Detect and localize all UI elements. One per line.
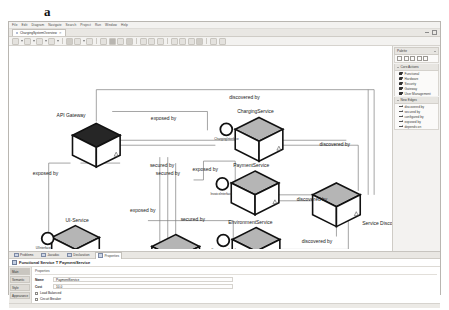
properties-header-title: Functional Service T PaymentService (19, 260, 90, 265)
align-left-button[interactable] (140, 38, 147, 45)
chevron-down-icon[interactable] (45, 40, 47, 42)
properties-section-appearance[interactable]: Appearance (10, 292, 30, 299)
palette-section-new-edges[interactable]: New Edges (394, 97, 439, 104)
checkbox-icon[interactable] (35, 292, 38, 295)
bold-button[interactable] (86, 38, 93, 45)
connection-icon[interactable] (423, 56, 428, 61)
chevron-down-icon[interactable] (434, 51, 436, 52)
palette-panel: Palette Core Actions Functional Hardwa (393, 46, 440, 251)
layout-tool-button[interactable] (48, 38, 55, 45)
name-field[interactable]: PaymentService (53, 277, 233, 282)
cube-light-icon (399, 77, 403, 81)
properties-section-main[interactable]: Main (10, 268, 30, 275)
note-icon[interactable] (410, 56, 415, 61)
close-icon[interactable]: ✕ (59, 31, 62, 35)
node-label: ChargingService (237, 109, 274, 114)
select-arrow-icon[interactable] (397, 56, 402, 61)
javadoc-icon (41, 253, 46, 258)
field-row-cost: Cost 10.0 (35, 284, 233, 289)
tab-problems[interactable]: Problems (12, 252, 35, 258)
properties-section-list: Main Semantic Style Appearance (9, 267, 32, 303)
menu-item-file[interactable]: File (12, 23, 18, 28)
edge-label: exposed by (33, 171, 59, 176)
palette-item-label: Security (405, 82, 417, 86)
chevron-down-icon[interactable] (83, 40, 85, 42)
chevron-down-icon[interactable] (57, 40, 59, 42)
tab-javadoc[interactable]: Javadoc (39, 252, 61, 258)
font-name-button[interactable] (66, 38, 73, 45)
node-label: UI-Service (66, 218, 89, 223)
cube-top-face (152, 235, 200, 250)
diagram-node-charging-service[interactable]: ChargingService (235, 109, 283, 161)
diagram-node-payment-service[interactable]: PaymentService (231, 163, 279, 215)
diagram-node-api-gateway[interactable]: API Gateway (57, 113, 120, 167)
menu-item-diagram[interactable]: Diagram (31, 23, 44, 28)
edge-label: exposed by (151, 116, 177, 121)
properties-section-style[interactable]: Style (10, 284, 30, 291)
diagram-node-ui-service[interactable]: UI-Service (52, 218, 100, 250)
interface-invoice-interface[interactable]: InvoiceInterface (210, 178, 232, 196)
palette-item-label: discovered by (405, 105, 425, 109)
menu-item-project[interactable]: Project (80, 23, 91, 28)
export-image-button[interactable] (210, 38, 217, 45)
edge-label: exposed by (130, 208, 156, 213)
marquee-tool-button[interactable] (24, 38, 31, 45)
italic-button[interactable] (100, 38, 107, 45)
bring-to-front-button[interactable] (179, 38, 186, 45)
menu-item-window[interactable]: Window (105, 23, 117, 28)
properties-icon (98, 253, 103, 258)
cube-dark-icon (399, 87, 403, 91)
fill-color-button[interactable] (109, 38, 116, 45)
diagram-node-service-discovery[interactable]: Service Discovery (313, 183, 392, 227)
palette-item-depends-on[interactable]: depends on (394, 124, 439, 130)
edge-label: secured by (150, 163, 175, 168)
minimize-icon[interactable] (425, 32, 429, 33)
checkbox-row-circuit-breaker[interactable]: Circuit Breaker (35, 297, 233, 301)
select-tool-button[interactable] (12, 38, 19, 45)
cube-light-icon (399, 72, 403, 76)
maximize-icon[interactable] (432, 30, 437, 35)
zoom-tool-button[interactable] (36, 38, 43, 45)
send-to-back-button[interactable] (171, 38, 178, 45)
diagram-canvas[interactable]: API GatewayChargingServicePaymentService… (9, 46, 393, 251)
snap-to-grid-button[interactable] (188, 38, 195, 45)
editor-tab-charging-system-overview[interactable]: ChargingSystemOverview ✕ (12, 29, 66, 36)
menu-item-help[interactable]: Help (121, 23, 128, 28)
font-color-button[interactable] (126, 38, 133, 45)
menu-item-run[interactable]: Run (95, 23, 101, 28)
menu-item-search[interactable]: Search (66, 23, 77, 28)
toolbar-separator (206, 38, 207, 44)
menu-item-navigate[interactable]: Navigate (48, 23, 61, 28)
menu-bar: File Edit Diagram Navigate Search Projec… (9, 22, 440, 29)
chevron-down-icon[interactable] (33, 40, 35, 42)
menu-item-edit[interactable]: Edit (22, 23, 28, 28)
palette-item-label: exposed by (405, 120, 421, 124)
marquee-icon[interactable] (404, 56, 409, 61)
cost-field[interactable]: 10.0 (53, 284, 233, 289)
tab-declaration[interactable]: Declaration (65, 252, 91, 258)
edge-label: discovered by (229, 95, 260, 100)
chevron-down-icon[interactable] (21, 40, 23, 42)
palette-item-user-management[interactable]: User Management (394, 91, 439, 96)
line-color-button[interactable] (117, 38, 124, 45)
interface-lollipop-icon (42, 233, 54, 245)
align-right-button[interactable] (157, 38, 164, 45)
palette-tool-row (394, 55, 439, 63)
checkbox-row-load-balanced[interactable]: Load Balanced (35, 291, 233, 295)
palette-section-core-actions[interactable]: Core Actions (394, 64, 439, 71)
toolbar-separator (167, 38, 168, 44)
arrow-icon (399, 120, 403, 124)
ruler-toggle-button[interactable] (196, 38, 203, 45)
diagram-node-environment-service[interactable]: EnvironmentService (228, 220, 280, 250)
checkbox-icon[interactable] (35, 298, 38, 301)
edge-label: secured by (156, 171, 181, 176)
tab-properties[interactable]: Properties (95, 252, 122, 259)
toolbar-separator (96, 38, 97, 44)
diagram-node-security-service[interactable]: SecurityService (124, 235, 199, 250)
properties-section-semantic[interactable]: Semantic (10, 276, 30, 283)
align-center-button[interactable] (148, 38, 155, 45)
font-size-button[interactable] (74, 38, 81, 45)
palette-header[interactable]: Palette (394, 47, 439, 55)
print-diagram-button[interactable] (219, 38, 226, 45)
note-attachment-icon[interactable] (417, 56, 422, 61)
